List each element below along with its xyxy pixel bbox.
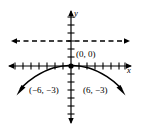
parabola-left-arrowhead <box>17 85 26 96</box>
dashed-line-right-arrowhead <box>124 38 130 43</box>
dashed-line-left-arrowhead <box>11 38 17 43</box>
y-axis-label: y <box>74 9 78 18</box>
y-axis-bottom-arrowhead <box>68 118 73 124</box>
graph-canvas <box>0 0 141 127</box>
y-axis-top-arrowhead <box>68 10 73 16</box>
vertex-point-label: (0, 0) <box>76 50 96 59</box>
right-point-label: (6, −3) <box>83 86 108 95</box>
vertex-point <box>68 63 73 68</box>
x-axis-left-arrowhead <box>8 63 14 68</box>
left-point-label: (−6, −3) <box>29 86 59 95</box>
parabola-coordinate-graph: (0, 0) (−6, −3) (6, −3) x y <box>0 0 141 127</box>
x-axis-label: x <box>127 66 131 75</box>
parabola-right-arrowhead <box>117 85 126 96</box>
